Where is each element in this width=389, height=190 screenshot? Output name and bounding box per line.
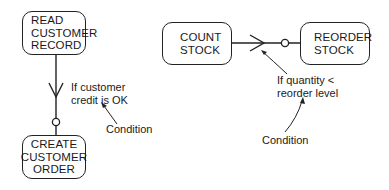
process-label-line: CUSTOMER	[21, 151, 87, 164]
process-label-line: RECORD	[31, 39, 81, 52]
process-label-line: COUNT	[180, 31, 221, 44]
process-label-line: CUSTOMER	[31, 27, 97, 40]
process-count-stock: COUNT STOCK	[162, 22, 232, 65]
process-label-line: READ	[31, 14, 63, 27]
process-label-line: CREATE	[31, 138, 77, 151]
process-label-line: STOCK	[314, 44, 354, 57]
condition-annotation-left: Condition	[106, 123, 152, 136]
process-create-customer-order: CREATE CUSTOMER ORDER	[22, 135, 86, 179]
process-label-line: REORDER	[314, 31, 372, 44]
condition-line: reorder level	[277, 87, 338, 100]
process-label-line: ORDER	[33, 163, 75, 176]
annotation-arrow	[263, 52, 287, 74]
optional-circle-icon	[281, 39, 288, 46]
annotation-arrow	[104, 106, 117, 124]
process-reorder-stock: REORDER STOCK	[300, 22, 370, 65]
condition-line: If customer	[71, 81, 128, 94]
condition-annotation-right: Condition	[262, 134, 308, 147]
process-label-line: STOCK	[180, 44, 220, 57]
condition-line: If quantity <	[277, 74, 338, 87]
optional-circle-icon	[52, 118, 59, 125]
condition-line: credit is OK	[71, 94, 128, 107]
condition-text-credit: If customer credit is OK	[71, 81, 128, 106]
annotation-arrow	[285, 101, 302, 132]
process-read-customer-record: READ CUSTOMER RECORD	[22, 11, 86, 55]
condition-text-quantity: If quantity < reorder level	[277, 74, 338, 99]
